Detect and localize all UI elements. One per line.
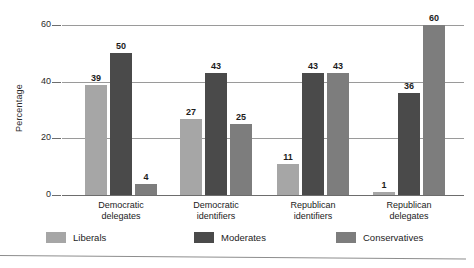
plot-area: 3950427432511434313660 — [62, 25, 464, 195]
x-axis-label: Republicandelegates — [349, 200, 469, 222]
legend-label: Liberals — [73, 232, 106, 243]
bar[interactable]: 43 — [205, 73, 227, 195]
y-axis-title: Percentage — [14, 68, 24, 148]
bar[interactable]: 60 — [423, 25, 445, 195]
y-tick-mark-20 — [52, 138, 61, 139]
bar-group: 13660 — [373, 25, 445, 195]
bar-value-label: 43 — [333, 61, 343, 71]
bar[interactable]: 4 — [135, 184, 157, 195]
legend-swatch-icon — [46, 232, 66, 243]
legend-item[interactable]: Moderates — [194, 232, 266, 243]
bar-value-label: 60 — [429, 13, 439, 23]
bar-group: 39504 — [85, 25, 157, 195]
bar[interactable]: 27 — [180, 119, 202, 196]
bar-value-label: 43 — [308, 61, 318, 71]
bar-value-label: 1 — [381, 180, 386, 190]
bar-value-label: 36 — [404, 81, 414, 91]
bar-value-label: 50 — [116, 41, 126, 51]
legend-label: Moderates — [221, 232, 266, 243]
legend-item[interactable]: Conservatives — [336, 232, 423, 243]
y-tick-label-0: 0 — [25, 189, 51, 199]
bar[interactable]: 43 — [327, 73, 349, 195]
bar-value-label: 39 — [91, 73, 101, 83]
x-axis-label-line: delegates — [349, 211, 469, 222]
y-tick-mark-40 — [52, 82, 61, 83]
bar[interactable]: 50 — [110, 53, 132, 195]
chart-legend: LiberalsModeratesConservatives — [46, 232, 456, 248]
legend-swatch-icon — [194, 232, 214, 243]
legend-item[interactable]: Liberals — [46, 232, 106, 243]
bottom-divider — [0, 252, 474, 262]
y-tick-label-20: 20 — [25, 132, 51, 142]
bar[interactable]: 1 — [373, 192, 395, 195]
bar-value-label: 27 — [186, 107, 196, 117]
divider-line — [0, 255, 466, 259]
y-tick-label-40: 40 — [25, 76, 51, 86]
bar-group: 114343 — [277, 25, 349, 195]
bar[interactable]: 39 — [85, 85, 107, 196]
bar-group: 274325 — [180, 25, 252, 195]
x-axis-label-line: Republican — [349, 200, 469, 211]
bar[interactable]: 25 — [230, 124, 252, 195]
y-tick-mark-0 — [52, 195, 61, 196]
bar-value-label: 11 — [283, 152, 293, 162]
bar-value-label: 25 — [236, 112, 246, 122]
gridline-0 — [62, 195, 464, 196]
bar-value-label: 4 — [143, 172, 148, 182]
bar-chart-figure: Percentage 3950427432511434313660 020406… — [0, 0, 474, 268]
bar[interactable]: 36 — [398, 93, 420, 195]
y-tick-label-60: 60 — [25, 19, 51, 29]
y-tick-mark-60 — [52, 25, 61, 26]
bar[interactable]: 11 — [277, 164, 299, 195]
legend-label: Conservatives — [363, 232, 423, 243]
bar-value-label: 43 — [211, 61, 221, 71]
legend-swatch-icon — [336, 232, 356, 243]
bar[interactable]: 43 — [302, 73, 324, 195]
